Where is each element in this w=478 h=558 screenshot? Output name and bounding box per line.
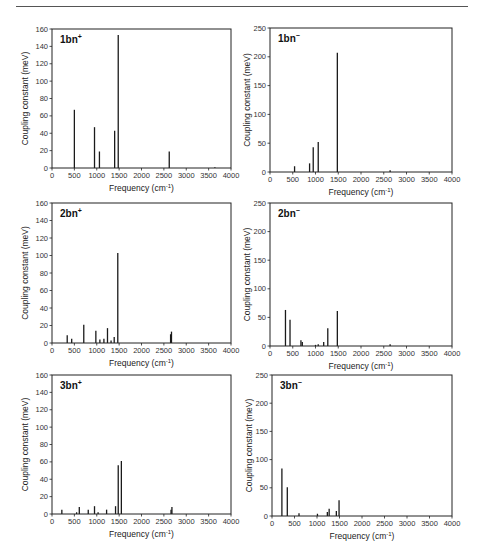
chart-panel-1bn-plus: 05001000150020002500300035004000Frequenc… <box>52 29 231 168</box>
y-tick-label: 0 <box>44 510 48 519</box>
plot-frame <box>52 203 231 343</box>
x-tick-label: 0 <box>50 346 54 355</box>
x-tick-label: 4000 <box>223 517 240 526</box>
y-tick-label: 20 <box>40 492 48 501</box>
y-tick-label: 0 <box>264 512 268 521</box>
y-tick-label: 140 <box>35 388 48 397</box>
y-tick-label: 50 <box>258 313 266 322</box>
x-tick-label: 2500 <box>376 519 393 528</box>
y-tick-label: 80 <box>40 440 48 449</box>
x-tick-label: 2500 <box>156 171 173 180</box>
x-tick-label: 0 <box>268 175 272 184</box>
x-tick-label: 4000 <box>444 175 461 184</box>
x-axis-title: Frequency (cm-1) <box>329 187 394 198</box>
x-tick-label: 500 <box>68 171 81 180</box>
bars <box>285 310 390 346</box>
bars <box>67 253 171 343</box>
y-tick-label: 200 <box>255 399 268 408</box>
x-tick-label: 1500 <box>331 519 348 528</box>
x-tick-label: 2500 <box>156 517 173 526</box>
chart-panel-2bn-minus: 05001000150020002500300035004000Frequenc… <box>270 203 452 346</box>
y-axis-title: Coupling constant (meV) <box>20 226 30 320</box>
y-tick-label: 200 <box>253 52 266 61</box>
y-tick-label: 0 <box>44 339 48 348</box>
y-tick-label: 40 <box>40 304 48 313</box>
x-tick-label: 3000 <box>399 519 416 528</box>
x-tick-label: 4000 <box>223 171 240 180</box>
x-axis: 05001000150020002500300035004000Frequenc… <box>270 516 460 541</box>
y-tick-label: 20 <box>40 146 48 155</box>
y-tick-label: 40 <box>40 129 48 138</box>
y-axis-title: Coupling constant (meV) <box>20 52 30 146</box>
y-axis-title: Coupling constant (meV) <box>20 398 30 492</box>
y-tick-label: 140 <box>35 216 48 225</box>
bars <box>282 469 339 516</box>
y-tick-label: 0 <box>44 164 48 173</box>
chart-panel-1bn-minus: 05001000150020002500300035004000Frequenc… <box>270 28 452 172</box>
y-tick-label: 120 <box>35 405 48 414</box>
bars <box>74 35 215 168</box>
x-tick-label: 1500 <box>330 349 347 358</box>
y-tick-label: 0 <box>262 168 266 177</box>
x-axis-title: Frequency (cm-1) <box>330 531 395 542</box>
y-axis-title: Coupling constant (meV) <box>242 53 252 147</box>
x-tick-label: 4000 <box>444 349 461 358</box>
plot-frame <box>270 28 452 172</box>
x-tick-label: 2000 <box>353 349 370 358</box>
y-tick-label: 60 <box>40 286 48 295</box>
y-tick-label: 50 <box>260 483 268 492</box>
x-tick-label: 3500 <box>200 346 217 355</box>
x-tick-label: 2500 <box>375 175 392 184</box>
panel-label: 1bn− <box>278 32 300 44</box>
y-axis: 050100150200250Coupling constant (meV) <box>244 371 272 521</box>
x-axis: 05001000150020002500300035004000Frequenc… <box>50 343 239 368</box>
y-tick-label: 0 <box>262 342 266 351</box>
y-tick-label: 140 <box>35 42 48 51</box>
y-axis: 020406080100120140160Coupling constant (… <box>20 371 52 519</box>
y-tick-label: 50 <box>258 139 266 148</box>
x-tick-label: 3500 <box>200 171 217 180</box>
x-tick-label: 2000 <box>133 171 150 180</box>
y-tick-label: 150 <box>253 256 266 265</box>
x-tick-label: 0 <box>50 517 54 526</box>
x-tick-label: 1000 <box>88 346 105 355</box>
x-axis-title: Frequency (cm-1) <box>109 529 174 540</box>
x-tick-label: 3000 <box>178 346 195 355</box>
x-tick-label: 1000 <box>88 171 105 180</box>
y-tick-label: 250 <box>255 371 268 380</box>
x-tick-label: 500 <box>286 349 299 358</box>
x-tick-label: 500 <box>286 175 299 184</box>
x-tick-label: 1500 <box>111 517 128 526</box>
bars <box>295 53 391 172</box>
x-tick-label: 3000 <box>398 175 415 184</box>
x-tick-label: 500 <box>288 519 301 528</box>
y-tick-label: 160 <box>35 25 48 34</box>
x-tick-label: 2000 <box>353 175 370 184</box>
x-tick-label: 1500 <box>330 175 347 184</box>
y-axis: 020406080100120140160Coupling constant (… <box>20 25 52 173</box>
y-tick-label: 80 <box>40 269 48 278</box>
bars <box>62 461 172 514</box>
x-tick-label: 3000 <box>178 517 195 526</box>
y-axis-title: Coupling constant (meV) <box>244 399 254 493</box>
plot-frame <box>52 375 231 514</box>
y-tick-label: 100 <box>255 455 268 464</box>
plot-frame <box>272 375 452 516</box>
x-tick-label: 0 <box>50 171 54 180</box>
y-tick-label: 250 <box>253 199 266 208</box>
x-axis-title: Frequency (cm-1) <box>109 183 174 194</box>
x-tick-label: 0 <box>270 519 274 528</box>
x-tick-label: 1500 <box>111 171 128 180</box>
y-tick-label: 120 <box>35 234 48 243</box>
chart-panel-3bn-plus: 05001000150020002500300035004000Frequenc… <box>52 375 231 514</box>
y-tick-label: 60 <box>40 111 48 120</box>
x-tick-label: 2000 <box>133 517 150 526</box>
y-axis: 020406080100120140160Coupling constant (… <box>20 199 52 348</box>
y-tick-label: 100 <box>253 284 266 293</box>
panel-label: 3bn− <box>280 379 302 391</box>
y-tick-label: 100 <box>35 251 48 260</box>
panel-label: 1bn+ <box>60 33 82 45</box>
chart-panel-3bn-minus: 05001000150020002500300035004000Frequenc… <box>272 375 452 516</box>
x-tick-label: 2500 <box>375 349 392 358</box>
x-axis: 05001000150020002500300035004000Frequenc… <box>268 346 460 371</box>
